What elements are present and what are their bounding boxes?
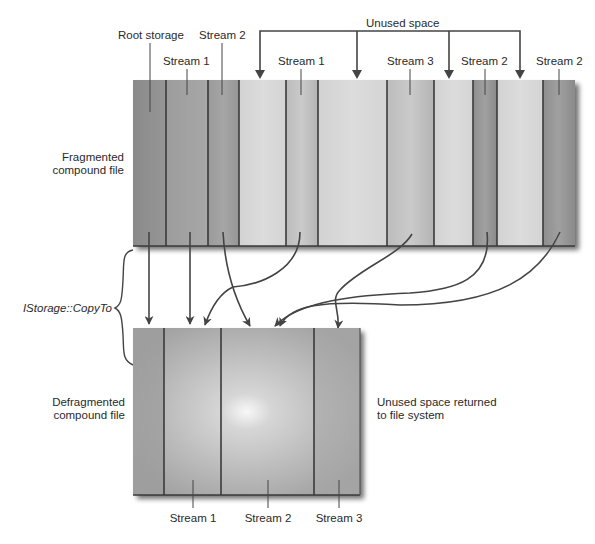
frag-segment-stream3 [387,80,434,246]
arrow-head-icon [255,70,265,79]
defrag-stream3-label: Stream 3 [316,512,363,524]
arrow-head-icon [444,70,454,79]
returned-label-line2: to file system [377,409,444,421]
defrag-segment-root-storage [133,328,164,495]
compound-file-defrag-diagram: Root storage Stream 1 Stream 2 Stream 1 … [0,0,595,544]
copyto-brace [115,250,133,365]
defragmented-file [133,328,360,495]
copyto-label: IStorage::CopyTo [23,302,113,314]
returned-label-line1: Unused space returned [377,396,497,408]
frag-stream1-b-label: Stream 1 [278,55,325,67]
defrag-stream2-label: Stream 2 [245,512,292,524]
fragmented-label-line2: compound file [52,164,124,176]
fragmented-label-line1: Fragmented [62,151,124,163]
arrow-stream3-to-stream3 [335,234,412,328]
fragmented-file [133,80,575,246]
frag-segment-unused-a [239,80,286,246]
frag-segment-unused-c [434,80,473,246]
frag-segment-stream2-b [473,80,497,246]
frag-stream2-b-label: Stream 2 [461,55,508,67]
defrag-segment-stream3 [314,328,360,495]
frag-stream2-a-label: Stream 2 [199,29,246,41]
root-storage-label: Root storage [118,29,184,41]
arrow-head-icon [352,70,362,79]
defragmented-label-line1: Defragmented [52,396,125,408]
frag-segment-stream1-b [286,80,318,246]
defrag-stream1-label: Stream 1 [170,512,217,524]
unused-space-label: Unused space [366,17,440,29]
frag-segment-unused-d [497,80,543,246]
frag-stream1-a-label: Stream 1 [163,55,210,67]
frag-segment-stream2-c [543,80,575,246]
frag-stream2-c-label: Stream 2 [536,55,583,67]
frag-stream3-label: Stream 3 [387,55,434,67]
frag-segment-stream1-a [166,80,208,246]
frag-segment-unused-b [318,80,387,246]
frag-segment-stream2-a [208,80,239,246]
defragmented-label-line2: compound file [53,409,125,421]
arrow-head-icon [515,70,525,79]
